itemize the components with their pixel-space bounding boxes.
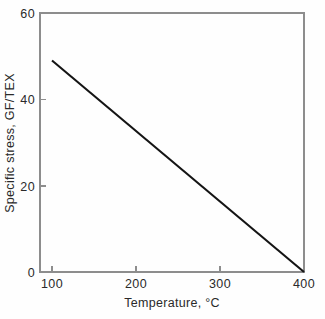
- y-tick-label-20: 20: [20, 180, 35, 194]
- y-tick-label-0: 0: [28, 266, 35, 280]
- x-tick-labels: 100 200 300 400: [41, 277, 315, 291]
- y-axis-title: Specific stress, GF/TEX: [3, 73, 17, 213]
- x-tick-label-200: 200: [125, 277, 147, 291]
- y-tick-label-60: 60: [20, 7, 35, 21]
- x-tick-label-400: 400: [293, 277, 315, 291]
- chart-plot-svg: 0 20 40 60 100 200 300 400 Temperature, …: [0, 0, 325, 319]
- y-axis-ticks: [40, 13, 46, 272]
- series-line-specific-stress: [52, 60, 304, 272]
- x-tick-label-300: 300: [209, 277, 231, 291]
- x-axis-title: Temperature, °C: [124, 296, 220, 310]
- data-series-group: [52, 60, 304, 272]
- axis-frame: [40, 13, 304, 272]
- chart-figure: 0 20 40 60 100 200 300 400 Temperature, …: [0, 0, 325, 319]
- x-tick-label-100: 100: [41, 277, 63, 291]
- y-tick-label-40: 40: [20, 93, 35, 107]
- y-tick-labels: 0 20 40 60: [20, 7, 35, 280]
- x-axis-ticks: [52, 266, 304, 272]
- plot-border: [40, 13, 304, 272]
